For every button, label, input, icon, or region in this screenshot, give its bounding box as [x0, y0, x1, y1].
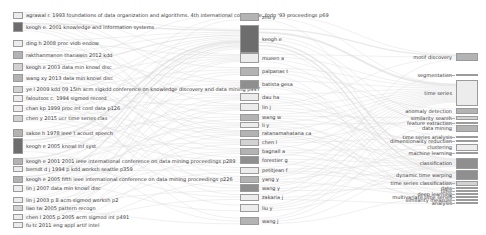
topic-node-box — [456, 53, 478, 61]
publication-label: agrawal r. 1993 foundations of data orga… — [26, 13, 329, 18]
topic-label: machine learning — [409, 151, 452, 156]
author-label: bagnall a — [262, 149, 285, 154]
label-connector-line — [447, 183, 455, 184]
publication-label: keogh e 2005 fifth ieee international co… — [26, 177, 233, 182]
author-label: keogh e — [262, 37, 282, 42]
publication-label: ye l 2009 kdd 09 15th acm sigkdd confere… — [26, 87, 260, 92]
publication-node-box — [13, 105, 23, 112]
publication-node-box — [13, 222, 23, 228]
author-node-box — [240, 114, 259, 121]
author-node-box — [240, 130, 259, 137]
author-node-box — [240, 93, 259, 101]
publication-label: berndt d j 1994 p kdd worksh seattle p35… — [26, 167, 133, 172]
publication-node-box — [13, 205, 23, 211]
publication-label: keogh e 2005 knowl inf syst — [26, 144, 96, 149]
publication-node-box — [13, 86, 23, 93]
publication-node-box — [13, 95, 23, 102]
author-label: zhu y — [262, 15, 276, 20]
author-node-box — [240, 194, 259, 201]
topic-label: time series — [424, 91, 452, 96]
author-label: forestier g — [262, 158, 288, 163]
author-node-box — [240, 25, 259, 53]
topic-node-box — [456, 190, 478, 192]
author-label: wang j — [262, 219, 278, 224]
label-connector-line — [447, 75, 455, 76]
author-node-box — [240, 67, 259, 76]
author-node-box — [240, 103, 259, 111]
publication-node-box — [13, 166, 23, 172]
publication-label: wang xy 2013 data min knowl disc — [26, 76, 113, 81]
topic-node-box — [456, 170, 478, 180]
publication-node-box — [13, 22, 23, 32]
label-connector-line — [447, 153, 455, 154]
author-label: li y — [262, 123, 269, 128]
topic-label: dynamic time warping — [396, 173, 452, 178]
author-label: zakaria j — [262, 195, 283, 200]
publication-label: keogh e. 2001 knowledge and information … — [26, 25, 154, 30]
publication-node-box — [13, 176, 23, 183]
publication-label: rakthanmanon thanawin 2012 kdd — [26, 53, 113, 58]
label-connector-line — [447, 203, 455, 204]
topic-node-box — [456, 199, 478, 201]
publication-node-box — [13, 63, 23, 71]
node-layer: agrawal r. 1993 foundations of data orga… — [0, 0, 486, 235]
author-label: dau ha — [262, 95, 279, 100]
author-node-box — [240, 184, 259, 192]
topic-label: classification — [420, 161, 452, 166]
author-label: wang w — [262, 115, 281, 120]
topic-node-box — [456, 74, 478, 76]
publication-node-box — [13, 51, 23, 59]
topic-node-box — [456, 80, 478, 106]
topic-node-box — [456, 196, 478, 198]
publication-label: liao tw 2005 pattern recogn — [26, 206, 96, 211]
publication-label: chen l 2005 p 2005 acm sigmod int p491 — [26, 215, 129, 220]
author-node-box — [240, 156, 259, 164]
publication-label: keogh e 2003 data min knowl disc — [26, 65, 112, 70]
topic-node-box — [456, 125, 478, 132]
label-connector-line — [447, 141, 455, 142]
label-connector-line — [447, 118, 455, 119]
publication-label: fu tc 2011 eng appl artif intel — [26, 223, 99, 228]
author-label: mueen a — [262, 56, 284, 61]
author-label: liu y — [262, 206, 273, 211]
publication-node-box — [13, 115, 23, 122]
author-label: palpanas t — [262, 69, 288, 74]
author-node-box — [240, 53, 259, 63]
author-label: yang y — [262, 177, 279, 182]
topic-node-box — [456, 202, 478, 204]
author-node-box — [240, 13, 259, 21]
publication-label: lin j 2003 p 8 acm sigmod worksh p2 — [26, 198, 118, 203]
topic-label: anomaly detection — [405, 109, 452, 114]
author-label: lin j — [262, 105, 271, 110]
topic-node-box — [456, 136, 478, 138]
publication-node-box — [13, 185, 23, 192]
publication-label: lin j 2007 data min knowl disc — [26, 186, 101, 191]
publication-node-box — [13, 158, 23, 165]
publication-node-box — [13, 40, 23, 47]
topic-node-box — [456, 140, 478, 142]
topic-node-box — [456, 116, 478, 120]
author-label: batista gesa — [262, 82, 293, 87]
label-connector-line — [447, 123, 455, 124]
author-node-box — [240, 122, 259, 128]
topic-node-box — [456, 187, 478, 189]
author-label: wang y — [262, 186, 280, 191]
topic-node-box — [456, 152, 478, 154]
publication-node-box — [13, 214, 23, 220]
topic-node-box — [456, 193, 478, 195]
topic-label: motif discovery — [413, 55, 452, 60]
publication-node-box — [13, 129, 23, 137]
author-label: chen l — [262, 140, 277, 145]
author-node-box — [240, 176, 259, 183]
author-node-box — [240, 139, 259, 146]
publication-label: sakoe h 1978 ieee t acoust speech — [26, 131, 113, 136]
publication-label: ding h 2008 proc vldb endow — [26, 41, 99, 46]
sankey-figure: agrawal r. 1993 foundations of data orga… — [0, 0, 486, 235]
topic-node-box — [456, 108, 478, 114]
author-node-box — [240, 80, 259, 89]
author-node-box — [240, 148, 259, 155]
topic-node-box — [456, 158, 478, 169]
publication-node-box — [13, 197, 23, 203]
author-node-box — [240, 204, 259, 212]
publication-label: chen y 2015 ucr time series clas — [26, 116, 107, 121]
